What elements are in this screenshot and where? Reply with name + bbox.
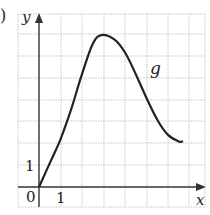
grid	[18, 14, 205, 207]
y-axis-label: y	[21, 8, 31, 26]
origin-label: 0	[26, 188, 36, 206]
y-tick-label-1: 1	[25, 157, 35, 175]
curve-label-g: g	[150, 58, 161, 78]
x-tick-label-1: 1	[56, 189, 66, 207]
x-axis-label: x	[196, 191, 205, 209]
function-graph: y x g 0 1 1	[0, 0, 210, 215]
